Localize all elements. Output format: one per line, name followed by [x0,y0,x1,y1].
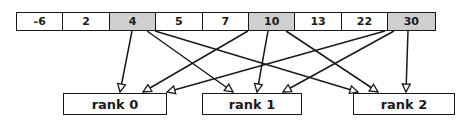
arrow-30-rank0 [167,31,385,92]
rank-2-box: rank 2 [353,93,455,115]
arrow-4-rank2 [155,31,358,92]
arrow-4-rank0 [120,31,132,92]
arrow-30-rank2 [406,31,408,92]
rank-0-box: rank 0 [63,93,167,115]
rank-1-box: rank 1 [202,93,302,115]
